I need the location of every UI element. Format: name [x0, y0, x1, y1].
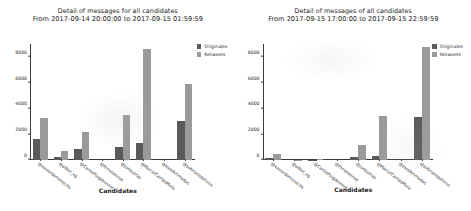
y-tick-label: 0: [257, 153, 260, 158]
y-tick-mark: [261, 133, 263, 134]
bar-originales[interactable]: [265, 158, 273, 160]
x-tick-cell: @sobiranistaforca: [411, 161, 432, 201]
legend-label-originales: Originales: [204, 44, 227, 49]
chart-right-title: Detail of messages of all candidates: [236, 7, 471, 15]
chart-left-title: Detail of messages for all candidates: [0, 7, 236, 15]
y-tick-label: 8000: [248, 49, 260, 54]
chart-left-plot-area: 02000400060008000: [30, 44, 195, 160]
x-tick-cell: @CarlesPuigdemont: [71, 161, 92, 201]
chart-left-legend: Originales Retweets: [197, 44, 228, 57]
x-tick-cell: @MarcelCampsMora: [369, 161, 390, 201]
legend-item-originales[interactable]: Originales: [197, 44, 228, 49]
y-tick-mark: [28, 133, 30, 134]
bar-group: [390, 44, 411, 160]
x-tick-cell: @sobiranistaforca: [174, 161, 195, 201]
y-tick-mark: [261, 159, 263, 160]
y-tick-mark: [28, 56, 30, 57]
chart-right-x-tick-labels: @xavierdomenechs@albiol_xg@CarlesPuigdem…: [263, 161, 433, 201]
bar-originales[interactable]: [54, 157, 61, 160]
bar-group: [71, 44, 92, 160]
bar-group: [92, 44, 113, 160]
y-tick-label: 2000: [248, 127, 260, 132]
bar-group: [348, 44, 369, 160]
chart-panel-left: Detail of messages for all candidates Fr…: [0, 0, 236, 211]
chart-left-titles: Detail of messages for all candidates Fr…: [0, 7, 236, 24]
chart-panel-right: Detail of messages of all candidates Fro…: [236, 0, 471, 211]
chart-left-x-axis-title: Candidates: [0, 187, 236, 194]
bar-group: [305, 44, 326, 160]
legend-item-originales[interactable]: Originales: [432, 44, 463, 49]
bar-originales[interactable]: [350, 157, 358, 160]
x-tick-cell: @InesArrimadas: [390, 161, 411, 201]
bar-retweets[interactable]: [379, 116, 387, 160]
chart-right-titles: Detail of messages of all candidates Fro…: [236, 7, 471, 24]
bar-group: [326, 44, 347, 160]
chart-right-bars: [263, 44, 433, 160]
bar-group: [263, 44, 284, 160]
legend-swatch-originales-icon: [197, 44, 201, 48]
y-tick-mark: [28, 159, 30, 160]
bar-retweets[interactable]: [61, 151, 68, 160]
y-tick-label: 0: [24, 153, 27, 158]
legend-item-retweets[interactable]: Retweets: [432, 52, 463, 57]
legend-swatch-retweets-icon: [197, 52, 201, 56]
bar-group: [30, 44, 51, 160]
bar-retweets[interactable]: [185, 84, 192, 160]
x-tick-cell: @junqueras: [348, 161, 369, 201]
x-tick-cell: @xavierdomenechs: [30, 161, 51, 201]
y-tick-label: 2000: [15, 127, 27, 132]
y-tick-label: 8000: [15, 49, 27, 54]
legend-item-retweets[interactable]: Retweets: [197, 52, 228, 57]
bar-originales[interactable]: [136, 143, 143, 160]
bar-originales[interactable]: [414, 117, 422, 160]
y-tick-mark: [261, 56, 263, 57]
y-tick-label: 6000: [15, 75, 27, 80]
bar-group: [411, 44, 432, 160]
x-tick-cell: @MarcelCampsMora: [133, 161, 154, 201]
x-tick-cell: @InesArrimadas: [154, 161, 175, 201]
bar-group: [174, 44, 195, 160]
bar-group: [133, 44, 154, 160]
bar-originales[interactable]: [372, 156, 380, 160]
bar-group: [51, 44, 72, 160]
chart-left-bars: [30, 44, 195, 160]
chart-right-x-axis-title: Candidates: [236, 186, 471, 193]
bar-retweets[interactable]: [40, 118, 47, 160]
bar-retweets[interactable]: [358, 145, 366, 160]
y-tick-mark: [28, 82, 30, 83]
legend-label-retweets: Retweets: [440, 52, 461, 57]
chart-right-subtitle: From 2017-09-15 17:00:00 to 2017-09-15 2…: [236, 15, 471, 24]
x-tick-cell: @CarlesPuigdemont: [305, 161, 326, 201]
x-tick-cell: @albiol_xg: [284, 161, 305, 201]
legend-label-retweets: Retweets: [204, 52, 225, 57]
chart-left-x-tick-labels: @xavierdomenechs@albiol_xg@CarlesPuigdem…: [30, 161, 195, 201]
bar-group: [154, 44, 175, 160]
bar-retweets[interactable]: [82, 132, 89, 160]
bar-retweets[interactable]: [123, 115, 130, 160]
bar-group: [369, 44, 390, 160]
bar-retweets[interactable]: [143, 49, 150, 160]
y-tick-label: 4000: [248, 101, 260, 106]
bar-group: [113, 44, 134, 160]
chart-right-legend: Originales Retweets: [432, 44, 463, 57]
y-tick-label: 6000: [248, 75, 260, 80]
legend-swatch-retweets-icon: [432, 52, 436, 56]
y-tick-mark: [28, 107, 30, 108]
bar-originales[interactable]: [74, 149, 81, 160]
bar-originales[interactable]: [33, 139, 40, 160]
bar-retweets[interactable]: [422, 47, 430, 160]
legend-swatch-originales-icon: [432, 44, 436, 48]
x-tick-cell: @xavierdomenechs: [263, 161, 284, 201]
x-tick-cell: @junqueras: [113, 161, 134, 201]
chart-left-subtitle: From 2017-09-14 20:00:00 to 2017-09-15 0…: [0, 15, 236, 24]
x-tick-cell: @ferranserrat: [326, 161, 347, 201]
legend-label-originales: Originales: [440, 44, 463, 49]
bar-group: [284, 44, 305, 160]
bar-retweets[interactable]: [316, 159, 324, 160]
bar-retweets[interactable]: [273, 154, 281, 160]
bar-originales[interactable]: [115, 147, 122, 160]
x-tick-label: @sobiranistaforca: [419, 161, 451, 188]
y-tick-label: 4000: [15, 101, 27, 106]
bar-originales[interactable]: [177, 121, 184, 160]
x-tick-label: @sobiranistaforca: [182, 161, 214, 188]
